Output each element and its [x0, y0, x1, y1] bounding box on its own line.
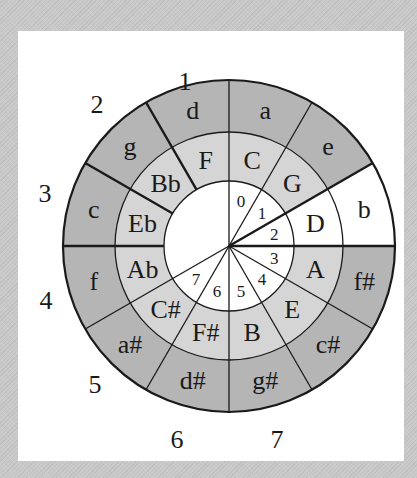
outer-number-label: 6: [171, 425, 184, 454]
inner-number-label: 1: [258, 204, 267, 223]
minor-key-label: d#: [180, 366, 206, 395]
minor-key-label: g: [124, 132, 137, 161]
outer-number-label: 3: [39, 179, 52, 208]
outer-number-label: 2: [91, 90, 104, 119]
major-key-label: F#: [192, 318, 219, 347]
major-key-label: G: [283, 169, 302, 198]
outer-number-label: 4: [40, 286, 53, 315]
major-key-label: Bb: [151, 169, 181, 198]
minor-key-label: g#: [252, 366, 278, 395]
minor-key-label: b: [358, 195, 371, 224]
minor-key-label: f: [89, 267, 98, 296]
inner-number-label: 3: [270, 249, 279, 268]
minor-key-label: d: [186, 96, 199, 125]
minor-key-label: c: [88, 195, 100, 224]
inner-number-label: 6: [213, 282, 222, 301]
minor-key-label: e: [322, 132, 334, 161]
outer-number-label: 5: [89, 370, 102, 399]
outer-number-label: 1: [179, 67, 192, 96]
inner-number-label: 5: [237, 282, 246, 301]
major-key-label: C#: [151, 295, 181, 324]
circle-of-fifths-diagram: CaGeDbAf#Ec#Bg#F#d#C#a#AbfEbcBbgFd012345…: [0, 0, 417, 478]
major-key-label: B: [243, 318, 260, 347]
major-key-label: Eb: [128, 209, 157, 238]
major-key-label: A: [306, 255, 325, 284]
major-key-label: E: [284, 295, 300, 324]
major-key-label: C: [243, 146, 260, 175]
inner-number-label: 4: [258, 270, 267, 289]
major-key-label: D: [306, 209, 325, 238]
major-key-label: F: [199, 146, 213, 175]
major-key-label: Ab: [127, 255, 159, 284]
minor-key-label: f#: [353, 267, 375, 296]
minor-key-label: a#: [118, 330, 143, 359]
outer-number-label: 7: [271, 425, 284, 454]
inner-number-label: 0: [237, 192, 246, 211]
inner-number-label: 2: [270, 225, 279, 244]
inner-number-label: 7: [192, 270, 201, 289]
minor-key-label: a: [259, 96, 271, 125]
minor-key-label: c#: [316, 330, 341, 359]
